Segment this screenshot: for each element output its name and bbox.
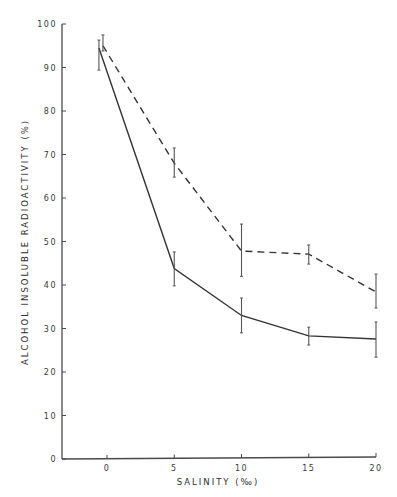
x-tick-label: 10 xyxy=(235,464,248,473)
y-tick-label: 10 xyxy=(44,412,57,421)
series-line-dashed xyxy=(103,46,376,292)
y-tick-label: 70 xyxy=(44,151,57,160)
y-tick-label: 40 xyxy=(44,281,57,290)
x-tick-label: 20 xyxy=(369,464,382,473)
series-group xyxy=(97,35,377,357)
y-tick-label: 90 xyxy=(44,64,57,73)
line-chart: 010203040506070809010005101520 SALINITY … xyxy=(0,0,397,497)
y-tick-label: 30 xyxy=(44,325,57,334)
y-axis-title: ALCOHOL INSOLUBLE RADIOACTIVITY (%) xyxy=(20,119,30,365)
x-tick-label: 15 xyxy=(302,464,315,473)
axes: 010203040506070809010005101520 xyxy=(37,20,382,473)
y-tick-label: 60 xyxy=(44,194,57,203)
y-tick-label: 80 xyxy=(44,107,57,116)
y-tick-label: 20 xyxy=(44,368,57,377)
y-tick-label: 0 xyxy=(50,455,57,464)
x-axis-line xyxy=(62,457,376,459)
x-tick-label: 0 xyxy=(104,464,111,473)
x-tick-label: 5 xyxy=(171,464,178,473)
y-tick-label: 50 xyxy=(44,238,57,247)
series-line-solid xyxy=(99,48,376,339)
y-tick-label: 100 xyxy=(37,20,57,29)
x-axis-title: SALINITY (‰) xyxy=(177,477,260,487)
